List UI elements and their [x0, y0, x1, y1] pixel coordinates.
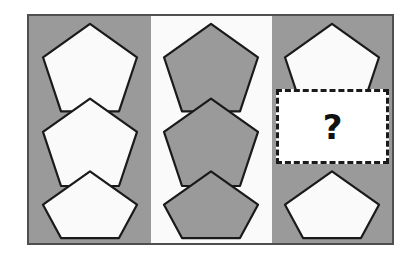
matrix-column-right: ?: [272, 16, 392, 243]
column-middle-graphic: [151, 16, 272, 243]
matrix-column-left: [29, 16, 151, 243]
matrix-column-middle: [151, 16, 272, 243]
puzzle-canvas: ?: [0, 0, 420, 262]
question-mark-icon: ?: [323, 110, 343, 144]
answer-placeholder-box[interactable]: ?: [276, 89, 389, 164]
figure-frame: ?: [27, 14, 394, 245]
column-left-graphic: [29, 16, 151, 243]
